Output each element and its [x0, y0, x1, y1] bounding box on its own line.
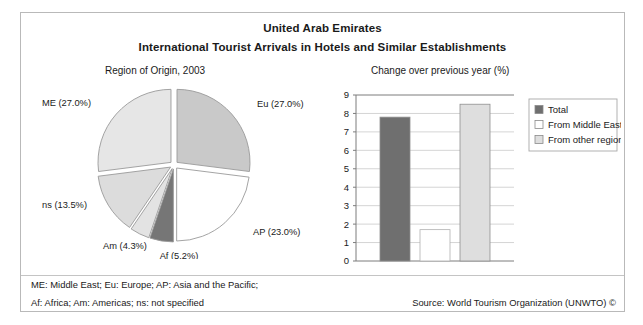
y-axis-tick-label: 5 — [344, 163, 349, 174]
y-axis-tick-label: 4 — [344, 182, 349, 193]
bar-total — [380, 117, 410, 261]
figure-frame: United Arab Emirates International Touri… — [20, 12, 625, 312]
bar-from-middle-east — [420, 230, 450, 261]
bar-chart-subtitle: Change over previous year (%) — [371, 65, 509, 76]
bar-from-other-regions — [460, 104, 490, 261]
y-axis-tick-label: 2 — [344, 219, 349, 230]
figure-title-line2: International Tourist Arrivals in Hotels… — [21, 41, 624, 53]
footer-divider — [21, 275, 624, 276]
footnote-line2: Af: Africa; Am: Americas; ns: not specif… — [31, 297, 204, 308]
legend-swatch-from-other-regions — [535, 136, 543, 144]
pie-label-am: Am (4.3%) — [103, 241, 147, 251]
pie-slice-eu — [177, 89, 250, 171]
bar-chart-y-axis: 0123456789 — [344, 89, 356, 266]
pie-chart: Eu (27.0%)AP (23.0%)Af (5.2%)Am (4.3%)ns… — [29, 79, 329, 259]
pie-slice-me — [98, 89, 171, 171]
pie-chart-subtitle: Region of Origin, 2003 — [105, 65, 205, 76]
pie-label-me: ME (27.0%) — [42, 98, 91, 108]
pie-label-ns: ns (13.5%) — [42, 200, 87, 210]
source-credit: Source: World Tourism Organization (UNWT… — [412, 297, 616, 308]
figure-title-line1: United Arab Emirates — [21, 22, 624, 34]
footnote-line1: ME: Middle East; Eu: Europe; AP: Asia an… — [31, 279, 258, 290]
pie-slice-ap — [177, 168, 249, 241]
legend-swatch-from-middle-east — [535, 121, 543, 129]
y-axis-tick-label: 8 — [344, 108, 349, 119]
pie-label-ap: AP (23.0%) — [253, 227, 300, 237]
legend-label-total: Total — [548, 104, 568, 115]
y-axis-tick-label: 1 — [344, 237, 349, 248]
legend-swatch-total — [535, 106, 543, 114]
pie-chart-svg: Eu (27.0%)AP (23.0%)Af (5.2%)Am (4.3%)ns… — [29, 79, 329, 259]
y-axis-tick-label: 0 — [344, 255, 349, 266]
y-axis-tick-label: 3 — [344, 200, 349, 211]
bar-chart-legend: TotalFrom Middle EastFrom other regions — [529, 99, 621, 151]
legend-label-from-other-regions: From other regions — [548, 134, 621, 145]
pie-label-af: Af (5.2%) — [160, 251, 199, 259]
pie-slice-group — [98, 89, 250, 242]
y-axis-tick-label: 7 — [344, 126, 349, 137]
bar-chart-svg: 0123456789 2003/2002 TotalFrom Middle Ea… — [326, 77, 621, 267]
legend-label-from-middle-east: From Middle East — [548, 119, 621, 130]
y-axis-tick-label: 9 — [344, 89, 349, 100]
bar-chart: 0123456789 2003/2002 TotalFrom Middle Ea… — [326, 77, 621, 267]
pie-label-eu: Eu (27.0%) — [257, 99, 304, 109]
y-axis-tick-label: 6 — [344, 145, 349, 156]
